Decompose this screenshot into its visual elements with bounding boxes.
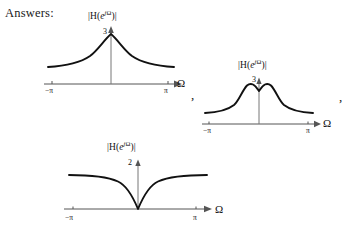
plot-lowpass-peak-value: 3: [103, 27, 107, 36]
mag-prefix: |H(: [88, 11, 100, 21]
plot-bimodal-tick-left: −π: [203, 126, 211, 135]
y-axis-arrow: [108, 26, 114, 33]
x-axis-arrow: [314, 121, 321, 127]
plot-bimodal-axis-label: Ω: [323, 117, 331, 129]
plot-bimodal-canvas: [198, 72, 333, 134]
x-axis-arrow: [204, 206, 212, 212]
plot-lowpass-canvas: [40, 22, 185, 94]
plot-lowpass: [40, 22, 185, 94]
mag-suffix: )|: [131, 142, 136, 152]
answers-figure: Answers: |H(ejΩ)| 3 −π π Ω ,: [0, 0, 353, 232]
plot-notch-magnitude-label: |H(ejΩ)|: [107, 142, 136, 152]
plot-notch-tick-left: −π: [65, 213, 73, 222]
plot-lowpass-tick-left: −π: [45, 86, 53, 95]
plot-notch-canvas: [60, 155, 225, 221]
separator-comma-2: ,: [339, 90, 342, 103]
y-axis-arrow: [135, 160, 140, 167]
plot-notch-tick-right: π: [193, 213, 197, 222]
plot-lowpass-tick-right: π: [164, 86, 168, 95]
mag-suffix: )|: [262, 60, 267, 70]
mag-prefix: |H(: [238, 60, 250, 70]
plot-bimodal: [198, 72, 333, 134]
y-axis-arrow: [256, 78, 261, 85]
mag-suffix: )|: [112, 11, 117, 21]
mag-prefix: |H(: [107, 142, 119, 152]
page-title: Answers:: [5, 6, 54, 21]
separator-comma-1: ,: [191, 88, 194, 101]
plot-lowpass-magnitude-label: |H(ejΩ)|: [88, 11, 117, 21]
plot-bimodal-magnitude-label: |H(ejΩ)|: [238, 60, 267, 70]
plot-notch-axis-label: Ω: [215, 203, 223, 215]
plot-lowpass-axis-label: Ω: [177, 77, 185, 89]
plot-bimodal-peak-value: 3: [252, 75, 256, 84]
plot-bimodal-tick-right: π: [306, 126, 310, 135]
plot-notch: [60, 155, 225, 221]
plot-notch-peak-value: 2: [128, 158, 132, 167]
